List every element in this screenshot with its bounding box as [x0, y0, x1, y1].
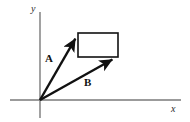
vector-b-label: B	[84, 76, 92, 88]
reference-rectangle	[78, 33, 118, 57]
vector-a-label: A	[45, 52, 53, 64]
y-axis-label: y	[30, 3, 36, 14]
vector-diagram-figure: x y A B	[0, 0, 190, 122]
vectors-group: A B	[40, 39, 112, 100]
vector-diagram-canvas: x y A B	[0, 0, 190, 122]
x-axis-label: x	[170, 103, 176, 114]
rectangle-group	[78, 33, 118, 57]
axes-group: x y	[10, 3, 181, 118]
